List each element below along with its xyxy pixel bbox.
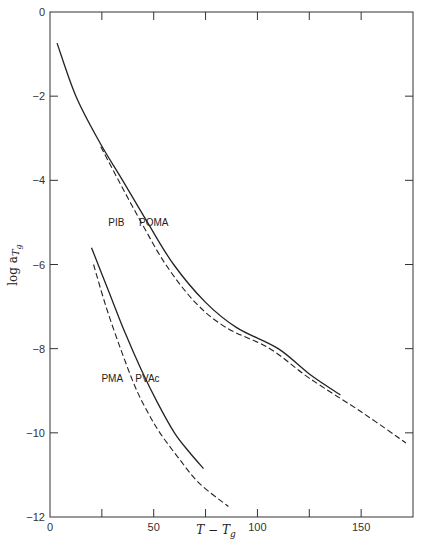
truncated-caption <box>0 546 427 555</box>
label-poma: POMA <box>139 217 169 228</box>
x-axis-title-subscript: g <box>230 529 236 539</box>
label-pma: PMA <box>101 373 123 384</box>
y-tick-label: −8 <box>32 343 45 355</box>
y-axis-title: log aTg <box>6 244 23 286</box>
label-pvac: PVAc <box>135 373 159 384</box>
x-axis-title: T − Tg <box>196 523 236 539</box>
data-series <box>57 43 406 506</box>
x-tick-label: 100 <box>248 521 266 533</box>
y-tick-label: −6 <box>32 259 45 271</box>
x-tick-label: 50 <box>148 521 160 533</box>
y-tick-label: 0 <box>39 6 45 18</box>
x-tick-label: 150 <box>352 521 370 533</box>
y-axis-ticks: 0−2−4−6−8−10−12 <box>26 6 413 523</box>
y-tick-label: −10 <box>26 427 45 439</box>
x-axis-ticks: 050100150 <box>47 12 370 533</box>
label-pib: PIB <box>108 217 124 228</box>
series-poma-line <box>57 43 340 395</box>
y-tick-label: −2 <box>32 90 45 102</box>
series-pma-line <box>94 265 229 507</box>
y-tick-label: −12 <box>26 511 45 523</box>
y-tick-label: −4 <box>32 174 45 186</box>
plot-frame <box>50 12 413 517</box>
series-pib-line <box>101 147 406 443</box>
x-tick-label: 0 <box>47 521 53 533</box>
chart: 050100150 0−2−4−6−8−10−12 POMAPIBPVAcPMA… <box>0 0 427 555</box>
